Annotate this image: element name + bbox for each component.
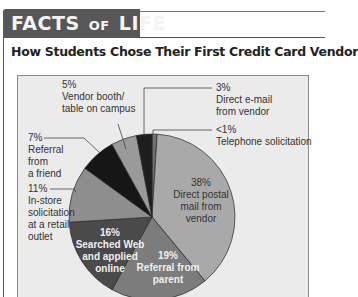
label-in-store-line3: at a retail	[28, 219, 75, 231]
label-in-store-line4: outlet	[28, 231, 75, 243]
label-in-store-line2: solicitation	[28, 207, 75, 219]
label-telephone: <1% Telephone solicitation	[216, 124, 312, 148]
label-direct-email: 3% Direct e-mail from vendor	[216, 82, 272, 118]
label-referral-friend-pct: 7%	[28, 132, 64, 144]
leader-line-direct-email	[144, 88, 212, 136]
label-vendor-booth: 5% Vendor booth/ table on campus	[62, 79, 135, 115]
label-vendor-booth-line1: Vendor booth/	[62, 91, 135, 103]
label-direct-postal-line2: mail from	[166, 201, 236, 213]
label-referral-friend-line3: a friend	[28, 168, 64, 180]
label-telephone-line1: Telephone solicitation	[216, 136, 312, 148]
label-vendor-booth-pct: 5%	[62, 79, 135, 91]
label-direct-postal-line1: Direct postal	[166, 189, 236, 201]
label-searched-web-pct: 16%	[72, 227, 148, 239]
label-telephone-pct: <1%	[216, 124, 312, 136]
label-referral-parent-pct: 19%	[130, 250, 206, 262]
label-referral-parent-line1: Referral from	[130, 262, 206, 274]
label-in-store: 11% In-store solicitation at a retail ou…	[28, 183, 75, 243]
label-vendor-booth-line2: table on campus	[62, 103, 135, 115]
label-direct-email-pct: 3%	[216, 82, 272, 94]
label-in-store-pct: 11%	[28, 183, 75, 195]
label-referral-friend: 7% Referral from a friend	[28, 132, 64, 180]
label-referral-friend-line1: Referral	[28, 144, 64, 156]
label-referral-parent: 19% Referral from parent	[130, 250, 206, 286]
label-referral-parent-line2: parent	[130, 274, 206, 286]
label-direct-postal-line3: vendor	[166, 213, 236, 225]
label-direct-email-line1: Direct e-mail	[216, 94, 272, 106]
label-direct-email-line2: from vendor	[216, 106, 272, 118]
label-in-store-line1: In-store	[28, 195, 75, 207]
label-referral-friend-line2: from	[28, 156, 64, 168]
leader-line-telephone	[153, 130, 212, 134]
label-direct-postal: 38% Direct postal mail from vendor	[166, 177, 236, 225]
label-direct-postal-pct: 38%	[166, 177, 236, 189]
